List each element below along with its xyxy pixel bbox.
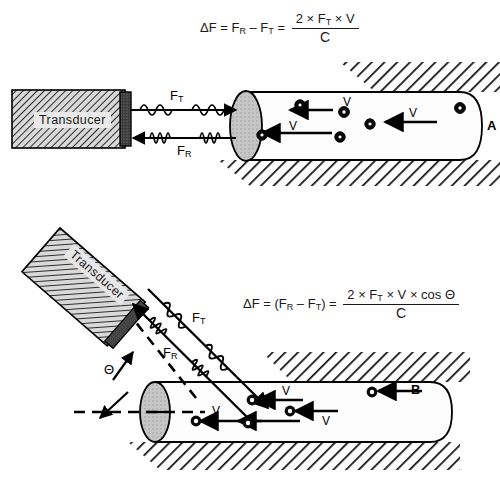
doppler-diagram-svg bbox=[0, 0, 500, 482]
formula-b-fraction: 2 × FT × V × cos Θ C bbox=[343, 288, 459, 321]
formula-a-eq: = bbox=[274, 20, 285, 35]
panel-b-label: B bbox=[411, 382, 420, 397]
formula-b-numerator: 2 × F bbox=[347, 287, 377, 302]
panel-b-tissue-lower bbox=[128, 442, 460, 470]
panel-a-v-label-2: V bbox=[409, 106, 417, 120]
panel-a-fr-label: FR bbox=[177, 143, 191, 159]
panel-a-v-label-3: V bbox=[289, 119, 297, 133]
panel-a-received-beam bbox=[133, 133, 236, 143]
panel-b-theta-label: Θ bbox=[104, 362, 114, 377]
panel-a-tissue-lower bbox=[218, 160, 500, 186]
panel-b-fr-label: FR bbox=[163, 345, 177, 361]
panel-b-ft-label: FT bbox=[192, 310, 205, 326]
figure-canvas: ΔF = FR – FT = 2 × FT × V C ΔF = (FR – F… bbox=[0, 0, 500, 482]
formula-b-num-tail: × V × cos Θ bbox=[383, 287, 455, 302]
formula-b-close: ) = bbox=[321, 296, 337, 311]
formula-a-lhs: ΔF = F bbox=[200, 20, 239, 35]
panel-a-vessel bbox=[230, 91, 482, 161]
panel-b-v-label-1: V bbox=[282, 384, 290, 398]
panel-b-v-label-3: V bbox=[212, 404, 220, 418]
panel-a-crystal bbox=[120, 92, 131, 146]
formula-b-mid: – F bbox=[293, 296, 315, 311]
panel-a-ft-label: FT bbox=[170, 88, 183, 104]
formula-panel-a: ΔF = FR – FT = 2 × FT × V C bbox=[200, 12, 359, 45]
panel-a-transducer-label: Transducer bbox=[34, 112, 111, 128]
panel-b-v-label-2: V bbox=[322, 414, 330, 428]
panel-a-vessel-opening bbox=[230, 91, 262, 161]
formula-a-mid: – F bbox=[246, 20, 268, 35]
formula-panel-b: ΔF = (FR – FT) = 2 × FT × V × cos Θ C bbox=[243, 288, 459, 321]
panel-a-transmitted-beam bbox=[131, 105, 236, 115]
formula-a-fraction: 2 × FT × V C bbox=[292, 12, 359, 45]
panel-a-tissue-upper bbox=[340, 62, 500, 92]
formula-b-denominator: C bbox=[343, 305, 459, 321]
panel-a-v-label-1: V bbox=[343, 95, 351, 109]
panel-b-transducer bbox=[22, 228, 150, 350]
formula-b-lhs: ΔF = (F bbox=[243, 296, 287, 311]
panel-b-tissue-upper bbox=[262, 352, 470, 382]
formula-a-numerator: 2 × F bbox=[296, 11, 326, 26]
panel-a-label: A bbox=[487, 118, 496, 133]
formula-a-num-tail: × V bbox=[331, 11, 355, 26]
formula-a-denominator: C bbox=[292, 29, 359, 45]
